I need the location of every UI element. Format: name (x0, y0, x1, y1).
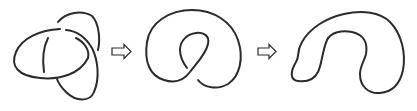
transform-arrow-1 (112, 45, 131, 59)
unknot (292, 12, 404, 93)
transform-arrow-2 (258, 45, 276, 59)
trefoil-knot (14, 13, 99, 100)
twisted-loop-knot (146, 10, 241, 87)
knot-diagram: Knot simplification sequence (0, 0, 417, 111)
